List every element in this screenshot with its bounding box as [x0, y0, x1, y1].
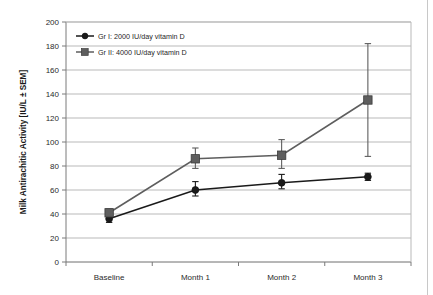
y-tick-label: 0 — [55, 258, 60, 267]
data-point-square — [364, 96, 372, 104]
figure-container: 200180160140120100806040200 BaselineMont… — [0, 0, 433, 295]
y-axis-ticks-group: 200180160140120100806040200 — [46, 18, 66, 267]
y-tick-label: 100 — [46, 138, 60, 147]
data-point-square — [105, 209, 113, 217]
y-tick-label: 140 — [46, 90, 60, 99]
data-point-square — [277, 151, 285, 159]
x-axis-ticks-group — [66, 262, 411, 266]
data-point-square — [191, 155, 199, 163]
x-axis-labels-group: BaselineMonth 1Month 2Month 3 — [94, 273, 383, 282]
x-axis-label: Month 1 — [181, 273, 210, 282]
legend-label-2: Gr II: 4000 IU/day vitamin D — [98, 48, 187, 57]
y-tick-label: 200 — [46, 18, 60, 27]
data-point-circle — [364, 173, 371, 180]
legend-label-1: Gr I: 2000 IU/day vitamin D — [98, 32, 185, 41]
data-point-circle — [278, 179, 285, 186]
x-axis-label: Month 3 — [353, 273, 382, 282]
x-axis-label: Baseline — [94, 273, 125, 282]
y-tick-label: 160 — [46, 66, 60, 75]
y-axis-title: Milk Antirachitic Activity [IU/L ± SEM] — [19, 70, 28, 215]
x-axis-label: Month 2 — [267, 273, 296, 282]
y-tick-label: 60 — [50, 186, 59, 195]
legend-marker-circle — [82, 33, 88, 39]
antirachitic-activity-line-chart: 200180160140120100806040200 BaselineMont… — [0, 0, 433, 295]
y-tick-label: 80 — [50, 162, 59, 171]
y-tick-label: 40 — [50, 210, 59, 219]
y-tick-label: 180 — [46, 42, 60, 51]
data-point-circle — [192, 187, 199, 194]
y-tick-label: 20 — [50, 234, 59, 243]
legend-marker-square — [81, 49, 88, 56]
y-tick-label: 120 — [46, 114, 60, 123]
